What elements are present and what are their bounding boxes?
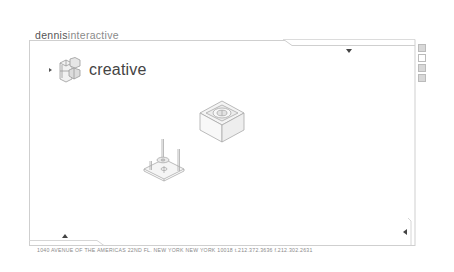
isometric-plate-with-pins[interactable] <box>140 133 190 187</box>
section-creative[interactable]: creative <box>54 57 147 83</box>
isometric-box-product[interactable] <box>196 98 248 146</box>
section-label: creative <box>89 61 147 79</box>
side-square-icon-3[interactable] <box>418 64 426 72</box>
isometric-cube-logo-icon <box>57 57 83 83</box>
side-icon-group <box>418 44 426 84</box>
triangle-down-icon[interactable] <box>346 49 352 53</box>
triangle-up-icon[interactable] <box>62 234 68 238</box>
footer-address: 1040 AVENUE OF THE AMERICAS 22ND FL. NEW… <box>37 247 313 253</box>
triangle-right-icon <box>49 68 52 72</box>
side-square-icon-4[interactable] <box>418 74 426 82</box>
triangle-left-icon[interactable] <box>403 229 407 235</box>
side-square-icon-1[interactable] <box>418 44 426 52</box>
side-square-icon-2[interactable] <box>418 54 426 62</box>
